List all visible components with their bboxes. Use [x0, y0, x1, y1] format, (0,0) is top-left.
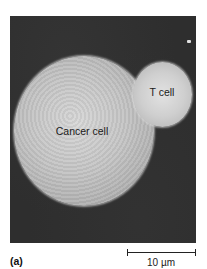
scale-bar-right-tick [195, 249, 196, 256]
panel-label: (a) [10, 255, 23, 267]
scale-bar-line [127, 252, 196, 253]
micrograph: T cell Cancer cell [10, 16, 196, 243]
t-cell-label: T cell [150, 86, 175, 98]
debris-speck [187, 40, 191, 43]
scale-bar-label: 10 µm [147, 257, 175, 268]
cancer-cell-label: Cancer cell [56, 125, 109, 137]
